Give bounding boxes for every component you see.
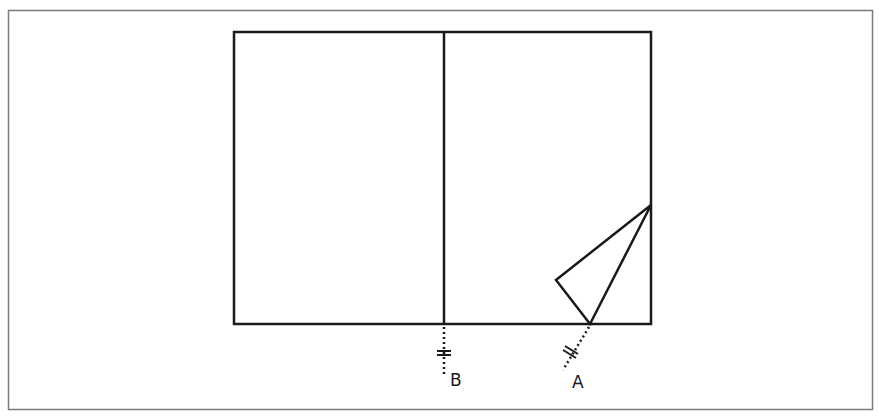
dotted-line-a: [563, 327, 589, 370]
diagram-canvas: B A: [0, 0, 879, 420]
label-b: B: [450, 370, 462, 390]
label-a: A: [572, 372, 584, 392]
main-rectangle: [234, 32, 651, 324]
marker-a: A: [563, 327, 589, 392]
outer-frame: [9, 11, 873, 410]
marker-b: B: [437, 327, 462, 390]
folded-corner-triangle: [556, 205, 651, 324]
